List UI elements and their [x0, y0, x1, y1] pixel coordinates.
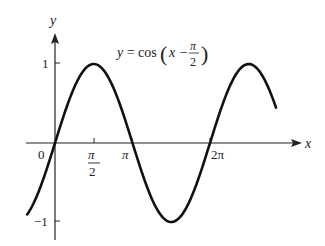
formula-lhs: y = cos — [115, 45, 157, 60]
formula-denominator: 2 — [190, 55, 196, 69]
pi-label: π — [122, 147, 129, 162]
formula-numerator: π — [190, 39, 197, 53]
origin-label: 0 — [38, 147, 45, 162]
formula-left-paren: ( — [160, 41, 167, 66]
chart-svg: x y 0 π 2 π 2π 1 −1 y = cos ( x − π 2 ) — [0, 0, 325, 246]
chart-figure: x y 0 π 2 π 2π 1 −1 y = cos ( x − π 2 ) — [0, 0, 325, 246]
two-pi-label: 2π — [211, 147, 225, 162]
pi-half-numerator: π — [88, 147, 95, 162]
pi-half-denominator: 2 — [89, 164, 96, 179]
y-axis-label: y — [48, 13, 57, 28]
formula-right-paren: ) — [201, 41, 208, 66]
x-axis-label: x — [304, 136, 312, 151]
formula-x: x − — [168, 45, 188, 60]
y-minus-one-label: −1 — [34, 214, 48, 229]
y-one-label: 1 — [42, 56, 49, 71]
